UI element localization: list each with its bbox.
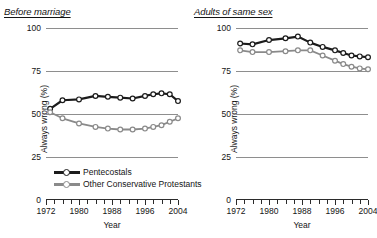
data-point xyxy=(366,55,371,60)
y-tick-label-50: 50 xyxy=(32,110,41,119)
data-point xyxy=(341,62,346,67)
data-point xyxy=(151,125,156,130)
x-tick-1972 xyxy=(236,200,237,205)
legend-item-pentecostals: Pentecostals xyxy=(54,166,202,178)
x-tick-label-1980: 1980 xyxy=(70,207,89,216)
data-point xyxy=(48,110,53,115)
x-tick-label-1980: 1980 xyxy=(260,207,279,216)
legend-label-series-2: Other Conservative Protestants xyxy=(83,178,202,190)
data-point xyxy=(159,123,164,128)
series-layer xyxy=(236,28,368,200)
panel-title-left: Before marriage xyxy=(4,6,71,17)
data-point xyxy=(93,94,98,99)
data-point xyxy=(320,53,325,58)
x-tick-2004 xyxy=(368,200,369,205)
series-line-2 xyxy=(50,112,178,129)
x-tick-label-1972: 1972 xyxy=(37,207,56,216)
data-point xyxy=(143,126,148,131)
data-point xyxy=(167,119,172,124)
x-tick-1972 xyxy=(46,200,47,205)
data-point xyxy=(176,99,181,104)
data-point xyxy=(366,67,371,72)
panel-adults-of-same-sex: Adults of same sex Always wrong (%) 0255… xyxy=(186,0,372,238)
data-point xyxy=(130,127,135,132)
x-tick-2002 xyxy=(170,200,171,204)
data-point xyxy=(333,58,338,63)
x-tick-1980 xyxy=(269,200,270,205)
x-tick-1998 xyxy=(153,200,154,204)
x-axis-label-left: Year xyxy=(46,220,178,230)
data-point xyxy=(283,49,288,54)
data-point xyxy=(250,42,255,47)
x-tick-1992 xyxy=(319,200,320,204)
data-point xyxy=(238,41,243,46)
x-tick-1992 xyxy=(129,200,130,204)
x-tick-2004 xyxy=(178,200,179,205)
y-tick-label-25: 25 xyxy=(32,153,41,162)
x-tick-label-1996: 1996 xyxy=(326,207,345,216)
data-point xyxy=(105,126,110,131)
x-tick-1996 xyxy=(335,200,336,205)
x-tick-1988 xyxy=(112,200,113,205)
x-tick-1988 xyxy=(302,200,303,205)
data-point xyxy=(77,97,82,102)
data-point xyxy=(130,96,135,101)
data-point xyxy=(320,45,325,50)
x-tick-1990 xyxy=(310,200,311,204)
x-tick-label-1988: 1988 xyxy=(293,207,312,216)
series-line-1 xyxy=(50,93,178,108)
data-point xyxy=(349,64,354,69)
plot-area-right: 025507510019721980198819962004 xyxy=(236,28,368,200)
y-tick-label-0: 0 xyxy=(226,196,231,205)
data-point xyxy=(267,38,272,43)
x-tick-2002 xyxy=(360,200,361,204)
x-tick-1976 xyxy=(63,200,64,204)
panel-before-marriage: Before marriage Always wrong (%) 0255075… xyxy=(0,0,186,238)
data-point xyxy=(283,36,288,41)
x-tick-1998 xyxy=(343,200,344,204)
legend-key-series-1 xyxy=(54,167,80,177)
x-tick-label-1996: 1996 xyxy=(136,207,155,216)
y-tick-label-0: 0 xyxy=(36,196,41,205)
x-tick-1994 xyxy=(327,200,328,204)
legend: Pentecostals Other Conservative Protesta… xyxy=(54,166,202,190)
x-tick-1978 xyxy=(261,200,262,204)
x-tick-1990 xyxy=(120,200,121,204)
data-point xyxy=(357,54,362,59)
data-point xyxy=(357,66,362,71)
data-point xyxy=(308,48,313,53)
x-tick-1984 xyxy=(96,200,97,204)
legend-item-other-conservative-protestants: Other Conservative Protestants xyxy=(54,178,202,190)
data-point xyxy=(60,116,65,121)
data-point xyxy=(105,94,110,99)
x-tick-2000 xyxy=(162,200,163,204)
x-tick-1974 xyxy=(54,200,55,204)
y-tick-label-100: 100 xyxy=(27,24,41,33)
data-point xyxy=(176,116,181,121)
data-point xyxy=(93,125,98,130)
x-tick-label-1972: 1972 xyxy=(227,207,246,216)
x-tick-1986 xyxy=(104,200,105,204)
data-point xyxy=(238,48,243,53)
y-tick-label-50: 50 xyxy=(222,110,231,119)
x-tick-1976 xyxy=(253,200,254,204)
x-axis-label-right: Year xyxy=(236,220,368,230)
panel-title-right: Adults of same sex xyxy=(194,6,272,17)
data-point xyxy=(151,92,156,97)
y-tick-label-75: 75 xyxy=(32,67,41,76)
x-tick-1974 xyxy=(244,200,245,204)
x-tick-label-1988: 1988 xyxy=(103,207,122,216)
x-tick-label-2004: 2004 xyxy=(359,207,377,216)
x-tick-1980 xyxy=(79,200,80,205)
data-point xyxy=(60,98,65,103)
legend-key-series-2 xyxy=(54,179,80,189)
data-point xyxy=(349,53,354,58)
data-point xyxy=(77,121,82,126)
data-point xyxy=(308,40,313,45)
x-tick-label-2004: 2004 xyxy=(169,207,188,216)
data-point xyxy=(118,127,123,132)
data-point xyxy=(295,48,300,53)
data-point xyxy=(143,94,148,99)
data-point xyxy=(295,34,300,39)
